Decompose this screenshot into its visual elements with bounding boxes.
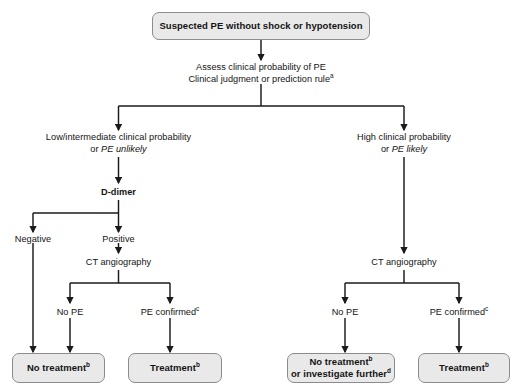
footnote-ref-c-right: c xyxy=(485,305,488,312)
node-low-intermediate-probability: Low/intermediate clinical probability or… xyxy=(46,132,191,155)
footnote-ref-b-2: b xyxy=(369,355,373,362)
outcome-treatment-left[interactable]: Treatmentb xyxy=(128,353,222,383)
outcome-treatment-right[interactable]: Treatmentb xyxy=(418,353,510,383)
node-suspected-pe-label: Suspected PE without shock or hypotensio… xyxy=(159,20,362,32)
outcome-2-line1: No treatment xyxy=(309,356,368,367)
footnote-ref-a: a xyxy=(330,71,334,78)
right-branch-line1: High clinical probability xyxy=(357,132,451,144)
footnote-ref-d-2: d xyxy=(387,367,391,374)
outcome-2-line2: or investigate further xyxy=(291,368,387,379)
node-d-dimer-positive: Positive xyxy=(102,234,134,246)
outcome-no-treatment-left[interactable]: No treatmentb xyxy=(12,353,105,383)
footnote-ref-b-1: b xyxy=(196,361,200,368)
footnote-ref-b-0: b xyxy=(86,361,90,368)
outcome-1-line1: Treatment xyxy=(150,362,196,373)
node-ct-angiography-left: CT angiography xyxy=(86,257,152,269)
node-d-dimer-negative: Negative xyxy=(15,234,51,246)
node-d-dimer: D-dimer xyxy=(101,187,136,199)
outcome-0-line1: No treatment xyxy=(27,362,86,373)
node-ct-angiography-right: CT angiography xyxy=(371,257,437,269)
right-branch-line2: or PE likely xyxy=(357,144,451,156)
outcome-no-treatment-right[interactable]: No treatmentb or investigate furtherd xyxy=(287,353,395,383)
node-no-pe-left: No PE xyxy=(57,307,84,319)
node-no-pe-right: No PE xyxy=(332,307,359,319)
footnote-ref-c-left: c xyxy=(196,305,199,312)
node-high-probability: High clinical probability or PE likely xyxy=(357,132,451,155)
node-assess-probability: Assess clinical probability of PE Clinic… xyxy=(188,62,333,85)
node-suspected-pe[interactable]: Suspected PE without shock or hypotensio… xyxy=(152,12,370,40)
footnote-ref-b-3: b xyxy=(485,361,489,368)
assess-line1: Assess clinical probability of PE xyxy=(188,62,333,74)
left-branch-line2: or PE unlikely xyxy=(46,144,191,156)
left-branch-line1: Low/intermediate clinical probability xyxy=(46,132,191,144)
assess-line2: Clinical judgment or prediction rulea xyxy=(188,74,333,86)
node-pe-confirmed-left: PE confirmedc xyxy=(141,307,200,319)
node-pe-confirmed-right: PE confirmedc xyxy=(430,307,489,319)
outcome-3-line1: Treatment xyxy=(439,362,485,373)
flowchart-connectors xyxy=(0,0,521,391)
